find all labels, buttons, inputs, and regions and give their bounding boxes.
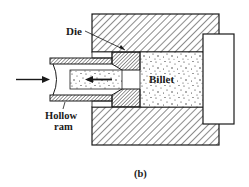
- ram-force-arrow-icon: [16, 76, 50, 83]
- label-ram: ram: [54, 121, 73, 132]
- container-top-wall: [92, 14, 219, 52]
- figure-caption: (b): [134, 168, 147, 180]
- closure-plate: [203, 34, 234, 124]
- gap-top: [92, 52, 112, 58]
- gap-bottom: [92, 101, 112, 107]
- label-die: Die: [66, 25, 82, 37]
- label-billet: Billet: [149, 73, 174, 85]
- label-hollow: Hollow: [45, 110, 78, 121]
- indirect-extrusion-diagram: Die Billet Hollow ram (b): [0, 0, 249, 187]
- ram-leader-line: [63, 102, 65, 109]
- container-bottom-wall: [92, 107, 219, 145]
